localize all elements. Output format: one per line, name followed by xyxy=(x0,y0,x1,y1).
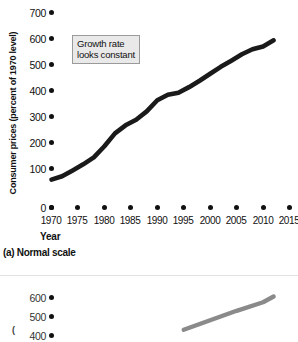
annotation-growth-rate: Growth rate looks constant xyxy=(72,35,140,64)
x-tick-label-2005: 2005 xyxy=(221,216,251,226)
chart-panel-log-scale: 600 500 400 ( xyxy=(0,280,298,342)
x-tick-label-2015: 2015 xyxy=(274,216,298,226)
x-tick-dot-1990 xyxy=(155,205,160,210)
x-tick-dot-2015 xyxy=(287,205,292,210)
x-axis-label-panel-a: Year xyxy=(40,231,60,242)
x-tick-dot-2005 xyxy=(234,205,239,210)
x-tick-label-1975: 1975 xyxy=(62,216,92,226)
annotation-line-1: Growth rate xyxy=(77,38,135,49)
annotation-line-2: looks constant xyxy=(77,49,135,60)
panel-divider xyxy=(0,275,298,276)
x-tick-dot-1995 xyxy=(181,205,186,210)
x-tick-dot-2010 xyxy=(261,205,266,210)
x-tick-dot-1985 xyxy=(128,205,133,210)
x-tick-dot-1970 xyxy=(49,205,54,210)
panel-a-caption: (a) Normal scale xyxy=(3,247,75,258)
x-tick-label-1995: 1995 xyxy=(168,216,198,226)
chart-panel-normal-scale: Consumer prices (percent of 1970 level) … xyxy=(0,0,298,262)
x-tick-dot-1980 xyxy=(102,205,107,210)
x-tick-dot-1975 xyxy=(75,205,80,210)
x-tick-label-1985: 1985 xyxy=(115,216,145,226)
data-line-consumer-prices-log xyxy=(0,280,298,342)
x-tick-dot-2000 xyxy=(208,205,213,210)
